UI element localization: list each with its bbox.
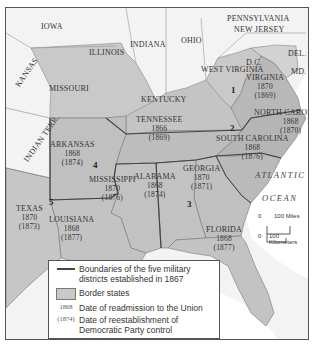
- readmission-key: 1868: [53, 303, 79, 310]
- label-kentucky: KENTUCKY: [141, 95, 187, 104]
- ocean-label-line1: ATLANTIC: [255, 170, 305, 180]
- label-louisiana: LOUISIANA1868(1877): [49, 215, 94, 242]
- district-line-swatch: [53, 264, 79, 274]
- scale-zero-km: 0: [258, 233, 261, 239]
- label-indiana: INDIANA: [130, 40, 166, 49]
- label-new-jersey: NEW JERSEY: [234, 25, 285, 34]
- label-alabama: ALABAMA1868(1874): [134, 172, 176, 199]
- scale-miles: 100 Miles: [274, 213, 300, 219]
- border-states-swatch: [53, 288, 79, 300]
- district-number-2: 2: [230, 123, 235, 133]
- label-missouri: MISSOURI: [49, 84, 89, 93]
- label-ohio: OHIO: [181, 36, 202, 45]
- label-virginia: VIRGINIA1870(1869): [246, 73, 284, 100]
- legend-item-district-boundaries: Boundaries of the five military district…: [53, 264, 217, 284]
- democratic-control-key: (1874): [53, 315, 79, 322]
- district-number-3: 3: [187, 199, 192, 209]
- map-legend: Boundaries of the five military district…: [48, 260, 220, 339]
- label-georgia: GEORGIA1870(1871): [183, 164, 220, 191]
- label-tennessee: TENNESSEE1866(1869): [136, 115, 183, 142]
- scale-km: 100 Kilometers: [269, 233, 308, 245]
- label-dc: D.C.: [246, 58, 262, 67]
- district-number-1: 1: [231, 85, 236, 95]
- label-texas: TEXAS1870(1873): [16, 204, 43, 231]
- label-maryland: MD.: [291, 67, 307, 76]
- district-number-5: 5: [49, 197, 54, 207]
- district-number-4: 4: [93, 160, 98, 170]
- label-arkansas: ARKANSAS1868(1874): [50, 140, 95, 167]
- label-florida: FLORIDA1868(1877): [206, 225, 242, 252]
- label-mississippi: MISSISSIPPI1870(1876): [89, 175, 136, 202]
- map-frame: IOWA ILLINOIS INDIANA OHIO PENNSYLVANIA …: [5, 7, 309, 340]
- legend-item-readmission: 1868 Date of readmission to the Union: [53, 303, 203, 313]
- label-illinois: ILLINOIS: [89, 48, 124, 57]
- legend-item-democratic-control: (1874) Date of reestablishment of Democr…: [53, 315, 217, 335]
- label-delaware: DEL.: [288, 49, 306, 58]
- label-iowa: IOWA: [41, 22, 63, 31]
- label-south-carolina: SOUTH CAROLINA1868(1876): [216, 134, 289, 161]
- label-pennsylvania: PENNSYLVANIA: [227, 14, 289, 23]
- scale-zero-miles: 0: [258, 213, 261, 219]
- legend-item-border-states: Border states: [53, 288, 130, 300]
- label-north-carolina: NORTH CAROLINA1868(1870): [254, 108, 309, 135]
- ocean-label-line2: OCEAN: [262, 193, 297, 203]
